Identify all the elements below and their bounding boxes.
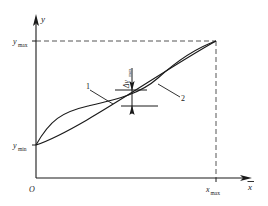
delta-y-max-subscript: max [127, 68, 132, 77]
curve-1-ideal-line [36, 41, 216, 145]
figure-container: y x O y max y min x max [0, 0, 268, 206]
ymin-tick-label: y min [12, 141, 27, 152]
curve-2-leader-line [158, 84, 180, 97]
ymin-subscript: min [18, 146, 27, 152]
ymax-subscript: max [18, 42, 28, 48]
characteristic-curve-diagram: y x O y max y min x max [0, 0, 268, 206]
callout-group: 1 2 [86, 82, 185, 104]
xmax-subscript: max [211, 190, 221, 196]
reference-lines [36, 41, 216, 178]
ymin-base: y [12, 141, 17, 150]
axes-group [32, 14, 252, 182]
x-axis-label-group: x [247, 182, 254, 193]
curve-1-leader-line [90, 90, 113, 104]
curve-1-label: 1 [86, 82, 90, 91]
origin-label: O [29, 185, 35, 194]
curve-2-label: 2 [181, 94, 185, 103]
delta-y-max-label: Δy max [122, 68, 132, 89]
delta-y-max-base: Δy [122, 80, 131, 89]
y-axis-label: y [40, 14, 45, 24]
xmax-tick-label: x max [205, 185, 220, 196]
xmax-base: x [205, 185, 210, 194]
ymax-base: y [12, 37, 17, 46]
ymax-tick-label: y max [12, 37, 28, 48]
x-axis-label: x [247, 182, 252, 192]
curves-group [36, 41, 216, 145]
